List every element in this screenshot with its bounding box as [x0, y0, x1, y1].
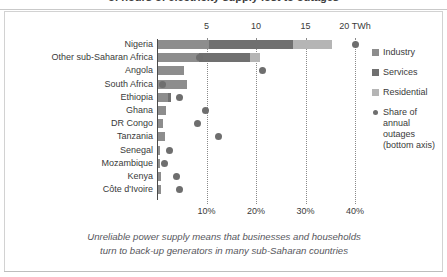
chart-legend: Industry Services Residential Share of a… [372, 47, 444, 160]
bar-segment-industry [158, 132, 165, 141]
bottom-axis-tick-1: 10% [182, 206, 232, 216]
category-label: Other sub-Saharan Africa [3, 52, 153, 63]
outage-share-dot [259, 67, 266, 74]
outage-share-dot [161, 160, 168, 167]
bottom-axis-tick-4: 40% [330, 206, 380, 216]
category-label: Tanzania [3, 131, 153, 142]
bar-segment-industry [158, 40, 209, 49]
outage-share-dot [173, 173, 180, 180]
chart-figure: of hours of electricity supply lost to o… [0, 0, 447, 277]
bar-segment-industry [158, 146, 160, 155]
bar-segment-industry [158, 119, 163, 128]
outage-share-dot [202, 107, 209, 114]
gridline-2 [256, 38, 257, 204]
bar-segment-services [199, 53, 250, 62]
bar-segment-services [209, 40, 292, 49]
bar-segment-industry [158, 93, 168, 102]
gridline-4 [355, 38, 356, 204]
legend-label-outage-share: Share of [372, 107, 444, 118]
outage-share-dot [215, 133, 222, 140]
bar-segment-residential [293, 40, 333, 49]
top-axis-tick-4: 20 TWh [325, 21, 385, 31]
outage-share-dot [176, 94, 183, 101]
bottom-axis-tick-3: 30% [281, 206, 331, 216]
caption-line-1: Unreliable power supply means that busin… [20, 230, 428, 244]
bar-segment-industry [158, 106, 166, 115]
caption-divider [4, 271, 443, 272]
legend-swatch-residential [372, 89, 379, 96]
outage-share-dot [194, 120, 201, 127]
bar-segment-services [168, 93, 171, 102]
outage-share-dot [176, 186, 183, 193]
category-label: Nigeria [3, 39, 153, 50]
caption-line-2: turn to back-up generators in many sub-S… [20, 244, 428, 258]
gridline-3 [306, 38, 307, 204]
category-label: South Africa [3, 79, 153, 90]
gridline-1 [207, 38, 208, 204]
bar-segment-industry [158, 159, 160, 168]
legend-swatch-industry [372, 49, 379, 56]
bar-segment-industry [158, 66, 184, 75]
legend-swatch-services [372, 69, 379, 76]
legend-label-outage-share-2: annual outages [372, 118, 444, 140]
outage-share-dot [166, 147, 173, 154]
legend-swatch-outage-share [373, 110, 378, 115]
bottom-axis-tick-2: 20% [231, 206, 281, 216]
category-label: DR Congo [3, 118, 153, 129]
legend-label-residential: Residential [372, 87, 444, 98]
bar-segment-industry [158, 53, 199, 62]
category-label: Angola [3, 65, 153, 76]
category-label: Mozambique [3, 158, 153, 169]
outage-share-dot [352, 41, 359, 48]
legend-label-outage-share-3: (bottom axis) [372, 140, 444, 151]
category-label: Kenya [3, 171, 153, 182]
legend-label-services: Services [372, 67, 444, 78]
legend-item-services: Services [372, 67, 444, 78]
bar-segment-industry [158, 185, 161, 194]
legend-label-industry: Industry [372, 47, 444, 58]
category-label: Ethiopia [3, 92, 153, 103]
category-label: Côte d'Ivoire [3, 184, 153, 195]
legend-item-industry: Industry [372, 47, 444, 58]
bar-segment-industry [158, 172, 161, 181]
legend-item-outage-share: Share of annual outages (bottom axis) [372, 107, 444, 151]
bar-segment-residential [250, 53, 260, 62]
legend-item-residential: Residential [372, 87, 444, 98]
chart-caption: Unreliable power supply means that busin… [20, 230, 428, 258]
category-label: Ghana [3, 105, 153, 116]
category-label: Senegal [3, 145, 153, 156]
